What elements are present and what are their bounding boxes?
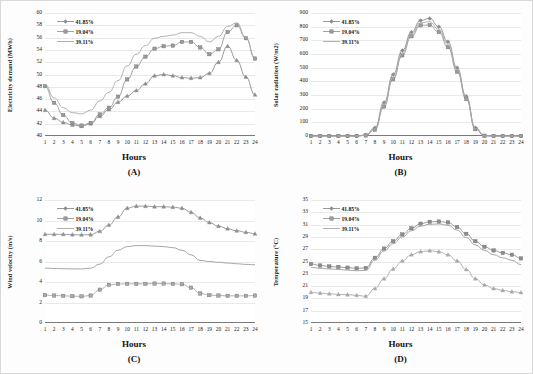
x-axis-ticks-2: 123456789101112131415161718192021222324	[1, 327, 267, 337]
x-tick-label: 22	[234, 140, 239, 145]
legend-marker-icon	[323, 204, 340, 213]
x-tick-label: 21	[491, 140, 496, 145]
x-tick-label: 2	[53, 327, 56, 332]
data-point-marker	[135, 65, 138, 68]
data-point-marker	[419, 19, 423, 23]
x-tick-label: 7	[98, 140, 101, 145]
data-point-marker	[116, 282, 119, 285]
data-point-marker	[419, 24, 422, 27]
x-tick-label: 17	[188, 327, 193, 332]
data-point-marker	[226, 44, 230, 48]
legend-item[interactable]: 41.85%	[57, 204, 94, 213]
x-tick-label: 23	[509, 327, 514, 332]
x-tick-label: 18	[464, 327, 469, 332]
data-point-marker	[89, 121, 92, 124]
data-point-marker	[235, 294, 238, 297]
data-point-marker	[244, 294, 247, 297]
panel-c: Wind velocity (m/s)024681012123456789101…	[1, 188, 267, 374]
x-tick-label: 14	[161, 327, 166, 332]
data-point-marker	[419, 222, 422, 225]
x-tick-label: 24	[252, 327, 257, 332]
legend-item[interactable]: 39.11%	[323, 37, 360, 46]
x-tick-label: 21	[225, 140, 230, 145]
data-point-marker	[501, 251, 504, 254]
legend-item[interactable]: 39.11%	[323, 224, 360, 233]
legend-item-label: 19.04%	[76, 29, 94, 35]
legend-item-label: 19.04%	[76, 216, 94, 222]
x-tick-label: 8	[374, 140, 377, 145]
x-tick-label: 11	[400, 140, 405, 145]
data-point-marker	[446, 221, 449, 224]
x-tick-label: 17	[454, 140, 459, 145]
x-tick-label: 22	[500, 327, 505, 332]
legend-item-label: 41.85%	[76, 19, 94, 25]
x-axis-label-2: Hours	[1, 339, 267, 349]
x-tick-label: 24	[518, 140, 523, 145]
data-point-marker	[98, 288, 101, 291]
x-tick-label: 13	[418, 140, 423, 145]
x-tick-label: 20	[482, 140, 487, 145]
data-point-marker	[180, 40, 183, 43]
legend-item[interactable]: 41.85%	[323, 17, 360, 26]
data-point-marker	[364, 266, 367, 269]
panel-tag-1: (B)	[267, 167, 533, 177]
legend-item[interactable]: 39.11%	[57, 37, 94, 46]
legend-marker-icon	[57, 17, 74, 26]
x-tick-label: 15	[170, 327, 175, 332]
x-tick-label: 19	[207, 140, 212, 145]
x-tick-label: 9	[117, 140, 120, 145]
legend-item[interactable]: 41.85%	[57, 17, 94, 26]
legend-2: 41.85% 19.04% 39.11%	[57, 204, 94, 234]
data-point-marker	[519, 257, 522, 260]
legend-item-label: 41.85%	[342, 19, 360, 25]
x-tick-label: 12	[409, 140, 414, 145]
legend-item[interactable]: 19.04%	[323, 214, 360, 223]
x-tick-label: 23	[243, 140, 248, 145]
data-point-marker	[125, 282, 128, 285]
data-point-marker	[71, 121, 74, 124]
data-point-marker	[52, 101, 55, 104]
x-tick-label: 3	[62, 327, 65, 332]
data-point-marker	[217, 294, 220, 297]
legend-item[interactable]: 19.04%	[57, 27, 94, 36]
x-tick-label: 12	[409, 327, 414, 332]
x-axis-ticks-3: 123456789101112131415161718192021222324	[267, 327, 533, 337]
data-point-marker	[235, 24, 238, 27]
data-point-marker	[373, 256, 376, 259]
x-tick-label: 17	[188, 140, 193, 145]
legend-item[interactable]: 19.04%	[57, 214, 94, 223]
data-point-marker	[71, 294, 74, 297]
legend-item[interactable]: 41.85%	[323, 204, 360, 213]
panel-tag-2: (C)	[1, 354, 267, 364]
series-line-19.04%	[45, 246, 255, 269]
data-point-marker	[162, 45, 165, 48]
data-point-marker	[437, 25, 441, 29]
x-tick-label: 2	[319, 140, 322, 145]
x-axis-label-1: Hours	[267, 152, 533, 162]
legend-item-label: 39.11%	[342, 226, 360, 232]
data-point-marker	[226, 294, 229, 297]
series-line-39.11%	[311, 251, 521, 297]
x-tick-label: 19	[473, 327, 478, 332]
x-tick-label: 23	[509, 140, 514, 145]
legend-item[interactable]: 19.04%	[323, 27, 360, 36]
x-tick-label: 12	[143, 327, 148, 332]
legend-1: 41.85% 19.04% 39.11%	[323, 17, 360, 47]
x-tick-label: 13	[418, 327, 423, 332]
legend-item-label: 41.85%	[76, 206, 94, 212]
data-point-marker	[62, 113, 65, 116]
x-tick-label: 2	[319, 327, 322, 332]
data-point-marker	[162, 282, 165, 285]
x-tick-label: 7	[364, 327, 367, 332]
legend-item-label: 41.85%	[342, 206, 360, 212]
data-point-marker	[437, 30, 440, 33]
x-tick-label: 3	[62, 140, 65, 145]
legend-item[interactable]: 39.11%	[57, 224, 94, 233]
legend-marker-icon	[57, 224, 74, 233]
data-point-marker	[135, 282, 138, 285]
data-point-marker	[428, 23, 431, 26]
data-point-marker	[89, 294, 92, 297]
x-tick-label: 5	[80, 140, 83, 145]
x-tick-label: 18	[464, 140, 469, 145]
data-point-marker	[391, 240, 394, 243]
